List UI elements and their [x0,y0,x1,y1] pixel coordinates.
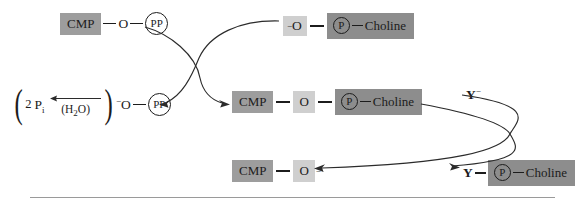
reaction-diagram: CMP O PP − O P Choline ( 2 Pi [0,0,583,210]
footer-divider [30,197,555,198]
arrow-path-top-left-to-middle [145,27,222,103]
arrow-path-middle-to-bottom-right [421,104,515,166]
arrow-path-top-right-to-left [167,21,279,102]
reaction-arrows-overlay [0,0,583,210]
arrowhead-to-y-phosphocholine [449,163,460,171]
arrowhead-to-middle-row [219,100,230,107]
arrowhead-to-pyrophosphate [159,101,170,108]
arrow-path-y-to-cmp-product [322,95,518,168]
